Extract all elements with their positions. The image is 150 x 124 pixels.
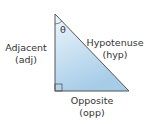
opposite-abbr: (opp) bbox=[79, 107, 104, 118]
hypotenuse-label: Hypotenuse bbox=[86, 37, 143, 48]
adjacent-label: Adjacent bbox=[5, 42, 47, 53]
adjacent-abbr: (adj) bbox=[15, 54, 37, 65]
angle-theta-label: θ bbox=[60, 24, 66, 35]
triangle-diagram: θ Adjacent (adj) Hypotenuse (hyp) Opposi… bbox=[0, 0, 150, 124]
opposite-label: Opposite bbox=[71, 95, 114, 106]
hypotenuse-abbr: (hyp) bbox=[102, 49, 127, 60]
